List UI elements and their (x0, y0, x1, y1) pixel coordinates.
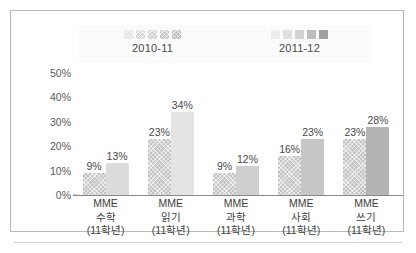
x-axis-category-line: MME (73, 197, 138, 211)
x-axis-category-line: (11학년) (269, 224, 334, 238)
bar[interactable] (171, 112, 194, 195)
bar-wrapper: 34% (171, 112, 194, 195)
bar-wrapper: 23% (343, 139, 366, 195)
bar-value-label: 23% (302, 126, 323, 138)
x-axis-category-label: MME읽기(11학년) (138, 197, 203, 241)
x-axis-category-line: 읽기 (138, 211, 203, 225)
x-axis-category-line: 수학 (73, 211, 138, 225)
bar[interactable] (366, 127, 389, 195)
x-axis-category-line: MME (334, 197, 399, 211)
bar[interactable] (278, 156, 301, 195)
x-axis-category-label: MME수학(11학년) (73, 197, 138, 241)
legend-swatch-icon (295, 30, 304, 39)
chart-frame: 2010-11 2011-12 50%40%30%20%10%0% 9%13%2… (10, 10, 404, 232)
legend-swatches-2011-12 (271, 30, 328, 39)
legend-swatch-icon (172, 30, 181, 39)
plot-area: 9%13%23%34%9%12%16%23%23%28% (73, 73, 399, 195)
bar-wrapper: 23% (301, 139, 324, 195)
x-axis-category-line: 과학 (203, 211, 268, 225)
legend-swatches-2010-11 (124, 30, 181, 39)
bar-value-label: 16% (279, 143, 300, 155)
bars: 23%28% (334, 73, 399, 195)
legend-group-2010-11: 2010-11 (79, 25, 226, 63)
y-axis-tick-label: 30% (33, 116, 71, 128)
legend-swatch-icon (307, 30, 316, 39)
bar-wrapper: 13% (106, 163, 129, 195)
bar-value-label: 9% (217, 160, 232, 172)
bar[interactable] (301, 139, 324, 195)
legend-swatch-icon (319, 30, 328, 39)
x-axis-category-line: (11학년) (334, 224, 399, 238)
y-axis: 50%40%30%20%10%0% (33, 67, 71, 201)
x-axis-labels: MME수학(11학년)MME읽기(11학년)MME과학(11학년)MME사회(1… (73, 197, 399, 241)
bar-wrapper: 12% (236, 166, 259, 195)
bar-group: 16%23% (269, 73, 334, 195)
legend-swatch-icon (283, 30, 292, 39)
bar-value-label: 13% (107, 150, 128, 162)
bar-wrapper: 9% (83, 173, 106, 195)
x-axis-category-line: (11학년) (203, 224, 268, 238)
bar[interactable] (213, 173, 236, 195)
bar[interactable] (343, 139, 366, 195)
y-axis-tick-label: 40% (33, 91, 71, 103)
bar-value-label: 34% (172, 99, 193, 111)
legend-label: 2011-12 (279, 42, 320, 54)
bar[interactable] (236, 166, 259, 195)
y-axis-tick-label: 0% (33, 189, 71, 201)
bar-wrapper: 28% (366, 127, 389, 195)
x-axis-category-label: MME과학(11학년) (203, 197, 268, 241)
bar-group: 9%12% (203, 73, 268, 195)
x-axis-line (73, 195, 403, 196)
bar-group: 23%28% (334, 73, 399, 195)
y-axis-tick-label: 10% (33, 165, 71, 177)
x-axis-category-line: 사회 (269, 211, 334, 225)
bar-value-label: 23% (344, 126, 365, 138)
legend-swatch-icon (271, 30, 280, 39)
bar[interactable] (83, 173, 106, 195)
bars: 16%23% (269, 73, 334, 195)
bar-value-label: 9% (87, 160, 102, 172)
bar-group: 23%34% (138, 73, 203, 195)
bar-group: 9%13% (73, 73, 138, 195)
x-axis-category-label: MME쓰기(11학년) (334, 197, 399, 241)
bars: 9%13% (73, 73, 138, 195)
legend-group-2011-12: 2011-12 (226, 25, 373, 63)
chart-legend: 2010-11 2011-12 (79, 25, 373, 63)
bar-groups: 9%13%23%34%9%12%16%23%23%28% (73, 73, 399, 195)
y-axis-tick-label: 20% (33, 140, 71, 152)
bar-wrapper: 23% (148, 139, 171, 195)
legend-label: 2010-11 (132, 42, 173, 54)
legend-swatch-icon (160, 30, 169, 39)
x-axis-category-line: (11학년) (73, 224, 138, 238)
bar[interactable] (106, 163, 129, 195)
x-axis-category-label: MME사회(11학년) (269, 197, 334, 241)
bar-value-label: 28% (367, 114, 388, 126)
legend-swatch-icon (148, 30, 157, 39)
x-axis-category-line: MME (138, 197, 203, 211)
legend-swatch-icon (136, 30, 145, 39)
bar-wrapper: 16% (278, 156, 301, 195)
legend-swatch-icon (124, 30, 133, 39)
x-axis-category-line: 쓰기 (334, 211, 399, 225)
bars: 9%12% (203, 73, 268, 195)
x-axis-category-line: MME (269, 197, 334, 211)
x-axis-category-line: MME (203, 197, 268, 211)
y-axis-tick-label: 50% (33, 67, 71, 79)
bar-wrapper: 9% (213, 173, 236, 195)
bottom-separator (14, 242, 402, 243)
bar-value-label: 23% (149, 126, 170, 138)
bars: 23%34% (138, 73, 203, 195)
x-axis-category-line: (11학년) (138, 224, 203, 238)
bar[interactable] (148, 139, 171, 195)
bar-value-label: 12% (237, 153, 258, 165)
